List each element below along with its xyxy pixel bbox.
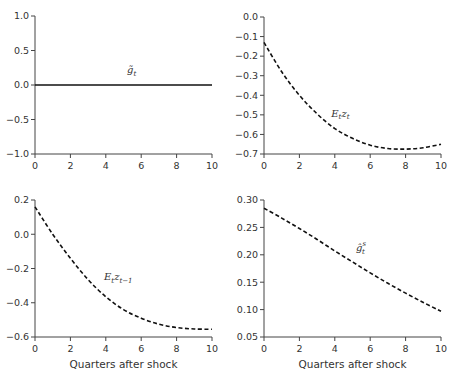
y-tick-label: −0.2 bbox=[235, 50, 258, 61]
x-tick-label: 10 bbox=[435, 160, 447, 171]
series-label: Etzt bbox=[330, 108, 349, 122]
y-tick-label: 0.2 bbox=[14, 194, 29, 205]
y-tick-label: −0.6 bbox=[6, 331, 29, 342]
x-tick-label: 10 bbox=[206, 343, 218, 354]
x-tick-label: 0 bbox=[32, 160, 38, 171]
y-tick-label: −0.4 bbox=[235, 90, 258, 101]
panel-bottom-left: −0.6−0.4−0.20.00.20246810Quarters after … bbox=[6, 194, 218, 370]
series-label: Etzt−1 bbox=[103, 271, 133, 285]
series-label: ĝst bbox=[356, 240, 366, 256]
y-tick-label: 0.5 bbox=[14, 45, 29, 56]
x-tick-label: 0 bbox=[261, 160, 267, 171]
series-line bbox=[264, 42, 441, 149]
y-tick-label: 0.20 bbox=[237, 249, 258, 260]
y-tick-label: 0.05 bbox=[237, 331, 258, 342]
panel-top-left: −1.0−0.50.00.51.00246810g̃t bbox=[6, 10, 218, 171]
x-tick-label: 2 bbox=[296, 160, 302, 171]
x-axis-title: Quarters after shock bbox=[299, 358, 408, 370]
y-tick-label: −0.4 bbox=[6, 297, 29, 308]
x-tick-label: 8 bbox=[403, 343, 409, 354]
figure: −1.0−0.50.00.51.00246810g̃t −0.7−0.6−0.5… bbox=[0, 0, 457, 381]
y-tick-label: −0.6 bbox=[235, 129, 258, 140]
y-tick-label: 0.10 bbox=[237, 304, 258, 315]
x-tick-label: 8 bbox=[403, 160, 409, 171]
x-tick-label: 10 bbox=[206, 160, 218, 171]
x-tick-label: 6 bbox=[367, 160, 373, 171]
x-tick-label: 8 bbox=[174, 343, 180, 354]
y-tick-label: −0.7 bbox=[235, 148, 258, 159]
y-tick-label: −1.0 bbox=[6, 148, 29, 159]
y-tick-label: −0.1 bbox=[235, 31, 258, 42]
x-tick-label: 6 bbox=[138, 160, 144, 171]
y-tick-label: −0.2 bbox=[6, 263, 29, 274]
y-tick-label: 0.0 bbox=[243, 11, 258, 22]
x-tick-label: 10 bbox=[435, 343, 447, 354]
y-tick-label: 0.30 bbox=[237, 194, 258, 205]
y-tick-label: 0.0 bbox=[14, 229, 29, 240]
y-tick-label: 0.15 bbox=[237, 277, 258, 288]
y-tick-label: 0.25 bbox=[237, 222, 258, 233]
x-tick-label: 4 bbox=[103, 160, 109, 171]
x-tick-label: 8 bbox=[174, 160, 180, 171]
y-tick-label: −0.5 bbox=[235, 109, 258, 120]
x-tick-label: 2 bbox=[296, 343, 302, 354]
y-tick-label: 0.0 bbox=[14, 79, 29, 90]
y-tick-label: −0.3 bbox=[235, 70, 258, 81]
x-tick-label: 6 bbox=[367, 343, 373, 354]
y-tick-label: 1.0 bbox=[14, 10, 29, 21]
panel-top-right: −0.7−0.6−0.5−0.4−0.3−0.2−0.10.00246810Et… bbox=[235, 11, 447, 171]
series-label: g̃t bbox=[127, 64, 136, 78]
x-tick-label: 4 bbox=[103, 343, 109, 354]
x-tick-label: 4 bbox=[332, 343, 338, 354]
x-tick-label: 2 bbox=[67, 343, 73, 354]
panel-bottom-right: 0.050.100.150.200.250.300246810Quarters … bbox=[237, 194, 447, 370]
x-tick-label: 4 bbox=[332, 160, 338, 171]
x-tick-label: 6 bbox=[138, 343, 144, 354]
x-tick-label: 2 bbox=[67, 160, 73, 171]
x-tick-label: 0 bbox=[32, 343, 38, 354]
series-line bbox=[264, 208, 441, 311]
series-line bbox=[35, 207, 212, 329]
x-axis-title: Quarters after shock bbox=[70, 358, 179, 370]
x-tick-label: 0 bbox=[261, 343, 267, 354]
y-tick-label: −0.5 bbox=[6, 114, 29, 125]
